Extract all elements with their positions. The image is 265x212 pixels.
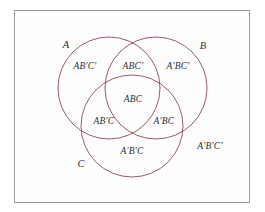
region-label-bc: A′BC [154, 117, 175, 127]
venn-circles [0, 0, 265, 212]
set-label-b: B [200, 41, 207, 52]
region-label-a-only: AB′C′ [73, 62, 96, 72]
region-label-outside: A′B′C′ [197, 142, 222, 152]
region-label-abc: ABC [124, 95, 143, 105]
venn-diagram-page: A B C AB′C′ ABC′ A′BC′ ABC AB′C A′BC A′B… [0, 0, 265, 212]
region-label-ac: AB′C [94, 117, 115, 127]
set-label-a: A [63, 40, 70, 51]
region-label-ab: ABC′ [123, 62, 144, 72]
set-label-c: C [77, 159, 84, 170]
region-label-c-only: A′B′C [120, 147, 143, 157]
region-label-b-only: A′BC′ [166, 62, 189, 72]
